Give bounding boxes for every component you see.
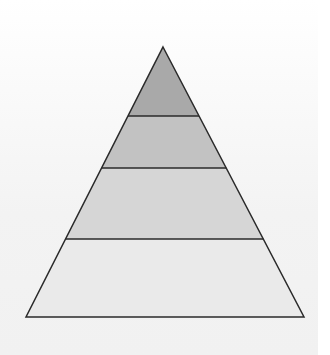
pyramid-level-lower-middle xyxy=(66,168,264,239)
pyramid-level-bottom xyxy=(26,239,304,317)
pyramid-level-upper-middle xyxy=(102,116,227,168)
diagram-canvas xyxy=(0,0,330,355)
pyramid-diagram xyxy=(0,0,330,355)
pyramid-level-top xyxy=(128,47,199,116)
